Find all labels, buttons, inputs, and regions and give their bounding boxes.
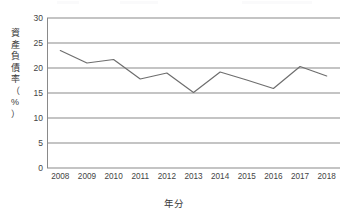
y-axis-title-char: 資	[4, 28, 26, 40]
y-axis-tick-label: 30	[34, 13, 43, 23]
x-axis-tick-label: 2014	[211, 172, 229, 181]
x-axis-tick-label: 2008	[51, 172, 69, 181]
x-axis-tick-label: 2018	[318, 172, 336, 181]
scan-artifact	[57, 1, 79, 4]
x-axis-tick-label: 2017	[291, 172, 309, 181]
y-axis-title-char: %	[4, 97, 26, 109]
x-axis-tick-label: 2012	[158, 172, 176, 181]
plot-area: 0510152025302008200920102011201220132014…	[47, 18, 340, 168]
y-axis-tick-label: 15	[34, 88, 43, 98]
y-axis-title-char: 債	[4, 63, 26, 75]
x-axis-tick-label: 2009	[78, 172, 96, 181]
y-axis-title-char: 負	[4, 51, 26, 63]
x-axis-tick-label: 2011	[131, 172, 149, 181]
y-axis-title-char: 產	[4, 40, 26, 52]
y-axis-title-char: ）	[4, 109, 26, 121]
y-axis-tick-label: 20	[34, 63, 43, 73]
y-axis-title-char: （	[4, 86, 26, 98]
x-axis-title: 年分	[0, 196, 347, 210]
scan-artifact	[120, 1, 158, 4]
y-axis-title-char: 率	[4, 74, 26, 86]
data-series-line	[47, 18, 340, 168]
line-chart: 資 產 負 債 率 （ % ） 051015202530200820092010…	[0, 0, 347, 220]
x-axis-tick-label: 2015	[238, 172, 256, 181]
y-axis-tick-label: 5	[38, 138, 43, 148]
x-axis-tick-label: 2013	[184, 172, 202, 181]
x-axis-tick-label: 2016	[264, 172, 282, 181]
scan-artifact	[242, 1, 312, 4]
x-axis-tick-label: 2010	[104, 172, 122, 181]
y-axis-tick-label: 0	[38, 163, 43, 173]
series-polyline	[60, 51, 326, 93]
y-axis-tick-label: 10	[34, 113, 43, 123]
y-axis-tick-label: 25	[34, 38, 43, 48]
y-axis-title: 資 產 負 債 率 （ % ）	[4, 28, 26, 120]
